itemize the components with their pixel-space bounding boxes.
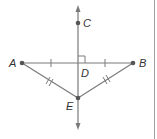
label-b: B: [139, 57, 146, 69]
point-a: [20, 61, 25, 66]
label-c: C: [83, 17, 91, 29]
label-d: D: [81, 67, 89, 79]
label-e: E: [66, 100, 74, 112]
arrow-down-icon: [76, 123, 81, 130]
arrow-up-icon: [76, 5, 81, 12]
geometry-diagram: A B C D E: [0, 0, 157, 139]
point-e: [76, 96, 81, 101]
segment-ae: [22, 63, 78, 98]
label-a: A: [8, 57, 16, 69]
right-angle-icon: [78, 56, 85, 63]
point-b: [131, 61, 136, 66]
point-c: [76, 21, 81, 26]
